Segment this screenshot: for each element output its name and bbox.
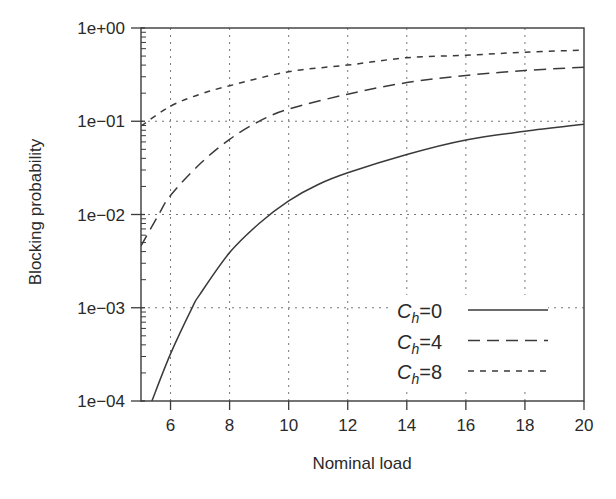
x-axis-label: Nominal load	[312, 454, 411, 473]
blocking-probability-chart: Ch=0Ch=4Ch=8 681012141618201e+001e−011e−…	[0, 0, 616, 499]
x-tick-label: 18	[515, 416, 534, 435]
series-line-c-h-8	[141, 50, 584, 126]
x-tick-label: 8	[225, 416, 234, 435]
y-axis-label: Blocking probability	[26, 138, 45, 285]
legend: Ch=0Ch=4Ch=8	[388, 295, 548, 389]
y-tick-label: 1e−04	[77, 392, 125, 411]
x-tick-label: 20	[575, 416, 594, 435]
y-tick-label: 1e−03	[77, 299, 125, 318]
y-tick-label: 1e−01	[77, 112, 125, 131]
y-tick-label: 1e+00	[77, 19, 125, 38]
y-tick-label: 1e−02	[77, 206, 125, 225]
x-tick-label: 10	[279, 416, 298, 435]
series-line-c-h-4	[141, 67, 584, 246]
x-tick-label: 12	[338, 416, 357, 435]
x-tick-label: 14	[397, 416, 416, 435]
x-tick-label: 6	[166, 416, 175, 435]
x-tick-label: 16	[456, 416, 475, 435]
